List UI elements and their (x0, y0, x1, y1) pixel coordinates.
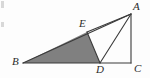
vertex-label-d: D (96, 64, 104, 75)
vertex-label-b: B (12, 56, 19, 67)
geometry-figure: A B C D E (0, 0, 150, 78)
segment-ae (87, 14, 131, 32)
vertex-label-c: C (134, 63, 141, 74)
vertex-label-e: E (79, 18, 86, 29)
figure-canvas (0, 0, 150, 78)
vertex-label-a: A (133, 1, 140, 12)
